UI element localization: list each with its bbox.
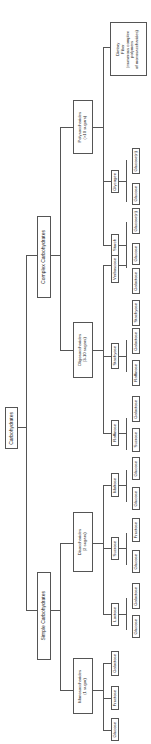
node-label: DietaryFiber(numerous complexpolymersof … <box>116 30 140 69</box>
connector <box>119 548 126 549</box>
node-label: Maltose <box>113 478 118 493</box>
node-label: Glucose <box>113 722 118 737</box>
connector <box>103 663 111 664</box>
node-raffinose-component: Galactose <box>132 396 140 422</box>
node-glycogen-component: Glucose <box>132 183 140 205</box>
connector <box>60 543 73 544</box>
node-glucose: Glucose <box>111 718 119 741</box>
node-label-line2: (2 sugars) <box>82 533 87 552</box>
connector <box>60 127 73 128</box>
node-galactose: Galactose <box>111 651 119 676</box>
connector <box>26 610 37 611</box>
node-label: Carbohydrates <box>9 412 15 445</box>
node-label-line2: (3-10 sugars) <box>82 338 87 363</box>
node-sucrose-component: Fructose <box>132 518 140 542</box>
node-label: Complex Carbohydrates <box>41 230 47 284</box>
node-label: Disaccharides(2 sugars) <box>78 529 88 555</box>
connector <box>126 160 127 202</box>
node-label: Glucose <box>134 554 139 569</box>
connector <box>103 485 104 615</box>
connector <box>93 127 103 128</box>
node-label: Glucose(n) <box>134 211 139 231</box>
connector <box>119 433 126 434</box>
node-label-line5: of monosaccharides) <box>135 30 140 69</box>
node-label: Raffinose <box>113 424 118 442</box>
node-label: Galactose <box>113 654 118 673</box>
node-simple-carbohydrates: Simple Carbohydrates <box>37 572 51 660</box>
node-label: Galactose <box>134 272 139 291</box>
connector <box>126 533 127 565</box>
node-stachyose-component: Raffinose <box>132 360 140 386</box>
node-starch-component: Glucose(n) <box>132 208 140 234</box>
connector <box>103 47 104 245</box>
connector <box>60 690 73 691</box>
connector <box>126 470 127 502</box>
node-maltose-component: Glucose <box>132 487 140 510</box>
connector <box>126 598 127 630</box>
node-label: Glucose <box>134 246 139 261</box>
node-monosaccharides: Monosaccharides(1 sugar) <box>73 658 93 714</box>
connector <box>51 610 60 611</box>
connector <box>119 356 126 357</box>
connector <box>126 418 127 450</box>
node-label: Sucrose <box>134 432 139 447</box>
node-carbohydrates: Carbohydrates <box>5 407 18 449</box>
connector <box>26 255 27 611</box>
node-label-line2: (1 sugar) <box>82 678 87 695</box>
node-stachyose: Stachyose <box>111 343 119 369</box>
connector <box>126 340 127 372</box>
node-maltose: Maltose <box>111 473 119 497</box>
node-label: Galactose <box>134 332 139 351</box>
connector <box>103 245 111 246</box>
node-polysaccharides: Polysaccharides(>10 sugars) <box>73 100 93 154</box>
node-glycogen: Glycogen <box>111 170 119 193</box>
connector <box>26 255 37 256</box>
node-label: Galactose <box>134 587 139 606</box>
connector <box>60 543 61 691</box>
connector <box>18 427 26 428</box>
connector <box>119 485 126 486</box>
node-verbascose: Verbascose <box>111 255 119 283</box>
connector <box>103 265 104 433</box>
node-label: Galactose <box>134 400 139 419</box>
node-label: Glucose <box>134 491 139 506</box>
connector <box>103 730 111 731</box>
connector <box>103 548 111 549</box>
connector <box>119 245 126 246</box>
node-sucrose: Sucrose <box>111 537 119 560</box>
connector <box>103 356 111 357</box>
node-label: Polysaccharides(>10 sugars) <box>78 112 88 143</box>
node-verbascose-component: Galactose <box>132 268 140 294</box>
node-label: Simple Carbohydrates <box>41 591 47 640</box>
node-label: Oligosaccharides(3-10 sugars) <box>78 334 88 366</box>
node-starch-component: Glucose <box>132 243 140 265</box>
node-label: Lactose <box>113 607 118 622</box>
connector <box>60 127 61 351</box>
node-lactose: Lactose <box>111 603 119 626</box>
node-label: Monosaccharides(1 sugar) <box>78 670 88 703</box>
node-starch: Starch <box>111 234 119 256</box>
node-raffinose-component: Sucrose <box>132 428 140 452</box>
connector <box>93 543 103 544</box>
connector <box>93 350 103 351</box>
connector <box>103 663 104 730</box>
node-label: Glucose <box>134 619 139 634</box>
node-label: Glucose <box>134 461 139 476</box>
connector <box>119 181 126 182</box>
node-label: Fructose <box>134 522 139 538</box>
node-fructose: Fructose <box>111 686 119 710</box>
node-maltose-component: Glucose <box>132 457 140 480</box>
node-label: Glucose <box>134 186 139 201</box>
node-sucrose-component: Glucose <box>132 550 140 573</box>
node-label: Glycogen <box>113 173 118 191</box>
connector <box>119 265 126 266</box>
node-label: Stachyose <box>113 346 118 366</box>
connector <box>103 265 111 266</box>
connector <box>103 47 110 48</box>
node-complex-carbohydrates: Complex Carbohydrates <box>37 216 51 298</box>
connector <box>103 698 111 699</box>
node-label: Starch <box>113 239 118 251</box>
node-oligosaccharides: Oligosaccharides(3-10 sugars) <box>73 322 93 378</box>
node-label: Raffinose <box>134 364 139 382</box>
node-glycogen-component: Glucose(n) <box>132 148 140 174</box>
